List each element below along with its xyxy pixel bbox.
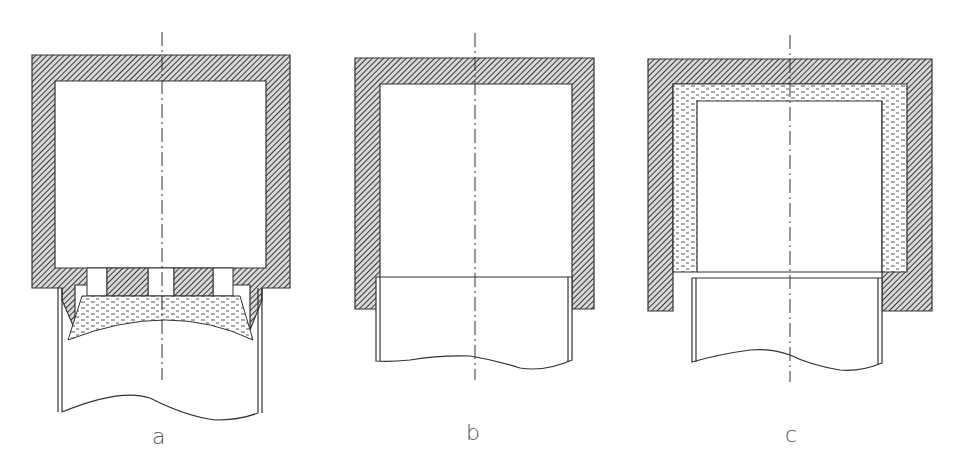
panel-a: a	[32, 32, 290, 449]
panel-label-a: a	[152, 424, 165, 449]
diagram-canvas: a b c	[0, 0, 960, 473]
plate-segment-2	[174, 268, 213, 296]
plate-hole-2	[148, 268, 174, 296]
panel-label-c: c	[785, 422, 797, 447]
panel-b: b	[355, 33, 594, 445]
tube-c	[692, 272, 882, 370]
plate-hole-3	[213, 268, 233, 296]
panel-label-b: b	[466, 420, 480, 445]
plate-segment-1	[107, 268, 148, 296]
plate-hole-1	[87, 268, 107, 296]
tube-b	[376, 277, 572, 369]
panel-c: c	[648, 35, 932, 447]
fill-layer-a	[68, 296, 253, 340]
